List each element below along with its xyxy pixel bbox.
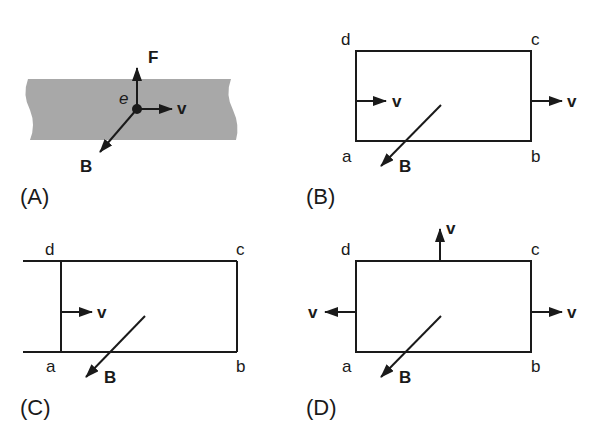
field-label: B	[399, 368, 411, 387]
charge-label: e	[119, 89, 128, 108]
velocity-label-left: v	[392, 92, 402, 111]
corner-c: c	[531, 30, 540, 49]
panel-d: d c a b v v v B (D)	[306, 219, 577, 420]
circuit-loop	[356, 51, 531, 141]
corner-b: b	[531, 357, 540, 376]
corner-d: d	[341, 30, 350, 49]
panel-c: d c a b v B (C)	[20, 240, 245, 420]
panel-b: d c a b v v B (B)	[306, 30, 577, 209]
corner-d: d	[45, 240, 54, 259]
force-label: F	[148, 48, 158, 67]
panel-label-d: (D)	[306, 395, 337, 420]
corner-a: a	[342, 147, 352, 166]
charge-dot	[132, 104, 142, 114]
corner-a: a	[46, 357, 56, 376]
conductor-band	[25, 79, 237, 140]
velocity-label: v	[177, 99, 187, 118]
field-label: B	[399, 157, 411, 176]
corner-b: b	[531, 147, 540, 166]
panel-label-c: (C)	[20, 395, 51, 420]
field-label: B	[104, 368, 116, 387]
corner-a: a	[342, 357, 352, 376]
field-label: B	[80, 157, 92, 176]
corner-c: c	[236, 240, 245, 259]
corner-b: b	[236, 357, 245, 376]
velocity-label-right: v	[567, 303, 577, 322]
velocity-label-top: v	[446, 219, 456, 238]
velocity-label-right: v	[567, 92, 577, 111]
panel-label-b: (B)	[306, 184, 335, 209]
velocity-label: v	[97, 303, 107, 322]
panel-label-a: (A)	[20, 184, 49, 209]
velocity-label-left: v	[308, 303, 318, 322]
corner-d: d	[341, 240, 350, 259]
circuit-loop	[356, 261, 531, 352]
figure-canvas: F v B e (A) d c a b v v B (B) d c a b v …	[0, 0, 601, 437]
corner-c: c	[531, 240, 540, 259]
panel-a: F v B e (A)	[20, 48, 237, 209]
